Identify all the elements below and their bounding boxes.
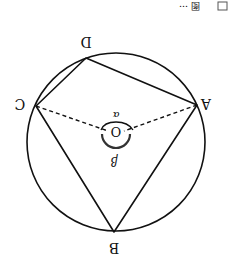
caption-box: [218, 2, 227, 10]
label-c: C: [15, 96, 26, 112]
caption-text: 图 ⋯: [179, 1, 200, 11]
label-o: O: [111, 124, 122, 139]
label-a: A: [200, 96, 212, 112]
label-b: B: [109, 240, 119, 256]
label-beta: β: [110, 154, 118, 168]
label-d: D: [80, 34, 91, 50]
radius-oc: [36, 106, 108, 131]
circle-o: [27, 53, 205, 231]
label-alpha: α: [112, 110, 119, 121]
radius-oa: [124, 105, 197, 131]
quadrilateral-abcd: [36, 58, 197, 232]
inscribed-quadrilateral-diagram: 图 ⋯ O α β D A B C: [0, 0, 235, 264]
caption: 图 ⋯: [179, 1, 227, 11]
